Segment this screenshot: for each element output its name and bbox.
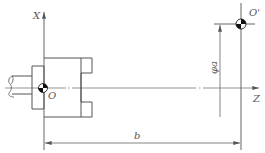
diameter-dimension-label: φa bbox=[209, 61, 219, 74]
z-axis-label: Z bbox=[253, 94, 260, 104]
origin-prime-symbol-icon bbox=[236, 19, 246, 29]
workpiece-outline bbox=[9, 58, 92, 117]
origin-prime-label: O' bbox=[249, 8, 260, 18]
origin-symbol-icon bbox=[39, 84, 48, 93]
origin-label: O bbox=[48, 91, 56, 101]
diagram-canvas bbox=[0, 0, 265, 153]
length-dimension-label: b bbox=[134, 131, 140, 141]
x-axis-label: X bbox=[33, 11, 40, 21]
